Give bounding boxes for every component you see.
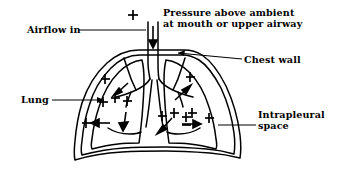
lung-pressure-diagram: Pressure above ambientat mouth or upper …: [0, 0, 340, 182]
label-lung: Lung: [21, 95, 49, 106]
left-lung-outline: [91, 60, 144, 149]
label-airflow-in: Airflow in: [27, 25, 81, 36]
plus-right-upper: [186, 72, 195, 82]
plus-left-lower-inner: [111, 93, 120, 103]
bronchial-tree: [116, 58, 193, 127]
leader-arrowheads: [97, 50, 185, 103]
arrow-left-mid: [119, 112, 128, 131]
label-intrapleural-line1: Intrapleural: [258, 109, 325, 120]
airflow-arrow-down: [149, 26, 157, 48]
plus-minus-sign: [182, 112, 191, 125]
arrow-right-mid: [157, 118, 172, 134]
label-pressure-line2: at mouth or upper airway: [163, 18, 302, 29]
label-pressure-line1: Pressure above ambient: [163, 7, 294, 18]
plus-right-far: [170, 108, 179, 118]
label-intrapleural-line2: space: [258, 120, 289, 131]
label-chest-wall: Chest wall: [244, 55, 301, 66]
arrow-right-horizontal: [182, 120, 201, 128]
label-intrapleural-space: Intrapleuralspace: [258, 110, 325, 131]
plus-left-mid-b: [123, 96, 132, 106]
plus-airway: [128, 10, 138, 20]
plus-left-upper: [101, 74, 110, 84]
label-pressure-above-ambient: Pressure above ambientat mouth or upper …: [163, 8, 302, 29]
